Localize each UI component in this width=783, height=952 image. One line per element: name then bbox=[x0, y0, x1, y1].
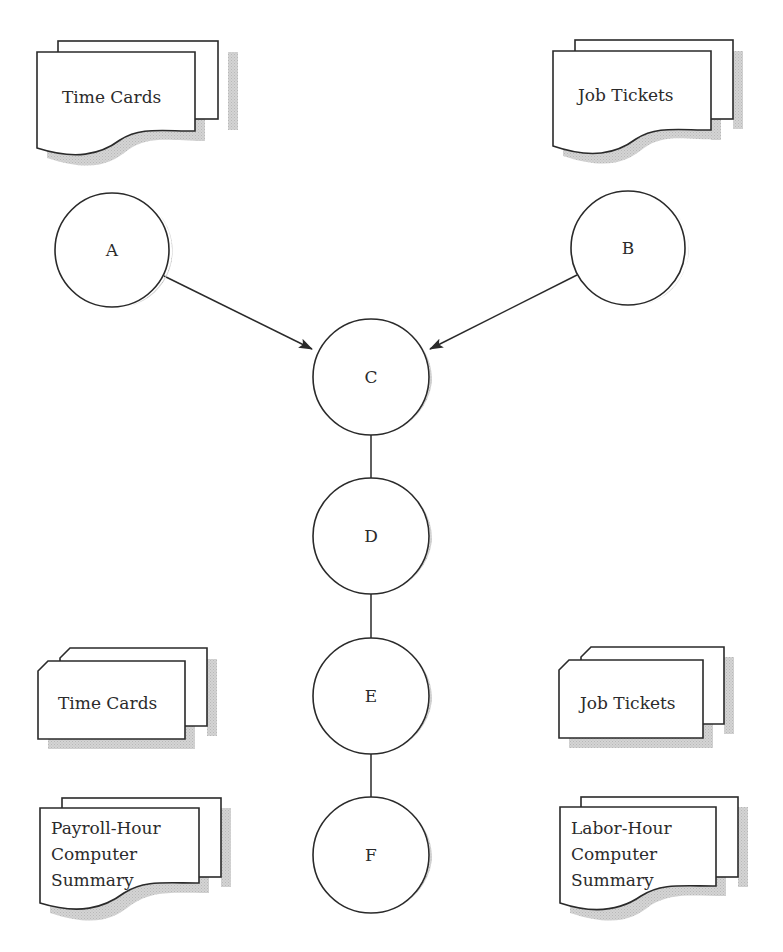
document-job-tickets-top: Job Tickets bbox=[553, 40, 743, 164]
node-f: F bbox=[313, 797, 432, 913]
node-e: E bbox=[313, 638, 432, 754]
shadow bbox=[207, 659, 217, 736]
label-line-3: Summary bbox=[571, 870, 654, 890]
label-line-2: Computer bbox=[51, 844, 138, 864]
document-labor-hour-summary: Labor-Hour Computer Summary bbox=[560, 797, 748, 921]
node-label: E bbox=[365, 686, 377, 706]
arrow-a-to-c bbox=[164, 276, 312, 349]
label-line-1: Payroll-Hour bbox=[51, 818, 161, 838]
document-time-cards-top: Time Cards bbox=[37, 41, 238, 166]
arrow-b-to-c bbox=[430, 275, 577, 349]
flowchart-canvas: Time Cards Job Tickets A B C D E bbox=[0, 0, 783, 952]
node-d: D bbox=[313, 478, 432, 594]
node-label: D bbox=[364, 526, 378, 546]
card-label: Job Tickets bbox=[578, 693, 676, 713]
document-label: Job Tickets bbox=[576, 85, 674, 105]
shadow bbox=[724, 657, 734, 734]
label-line-3: Summary bbox=[51, 870, 134, 890]
node-label: B bbox=[622, 238, 635, 258]
node-a: A bbox=[55, 193, 173, 307]
shadow bbox=[733, 51, 743, 129]
shadow bbox=[569, 738, 713, 748]
shadow bbox=[228, 52, 238, 130]
node-label: C bbox=[364, 367, 377, 387]
node-label: F bbox=[365, 845, 377, 865]
node-c: C bbox=[313, 319, 432, 435]
flowchart-svg: Time Cards Job Tickets A B C D E bbox=[0, 0, 783, 952]
node-b: B bbox=[571, 191, 689, 305]
shadow bbox=[48, 739, 195, 749]
document-payroll-hour-summary: Payroll-Hour Computer Summary bbox=[40, 798, 231, 921]
card-label: Time Cards bbox=[58, 693, 157, 713]
node-label: A bbox=[105, 240, 119, 260]
shadow bbox=[221, 808, 231, 887]
label-line-2: Computer bbox=[571, 844, 658, 864]
label-line-1: Labor-Hour bbox=[571, 818, 672, 838]
card-time-cards: Time Cards bbox=[38, 648, 217, 749]
card-job-tickets: Job Tickets bbox=[559, 647, 734, 748]
document-label: Time Cards bbox=[62, 87, 161, 107]
shadow bbox=[738, 807, 748, 887]
